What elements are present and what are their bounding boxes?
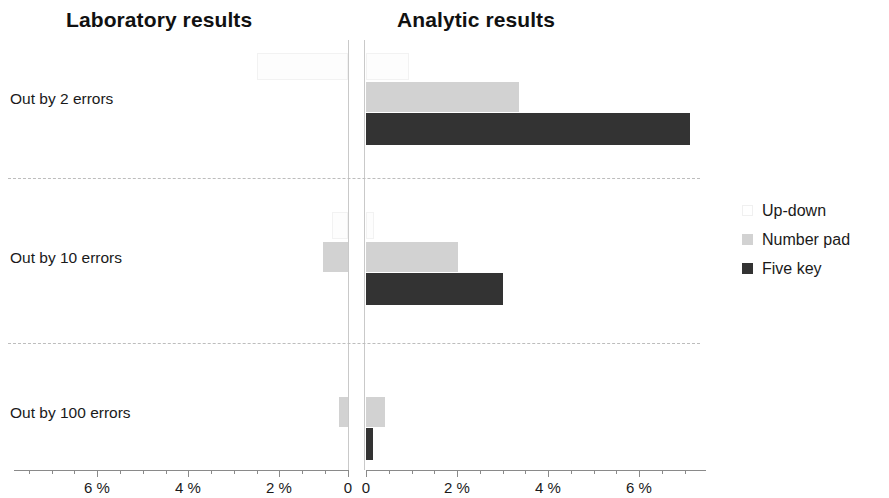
legend-label-five-key: Five key bbox=[762, 260, 822, 278]
bar-analytic-five-key-out-by-2-errors bbox=[366, 113, 690, 145]
plot-area: Out by 2 errors Out by 10 errors Out by … bbox=[0, 40, 720, 470]
x-axis-label-right-6pct: 6 % bbox=[626, 479, 652, 496]
x-axis-tick-minor bbox=[571, 470, 572, 474]
x-axis-tick-minor bbox=[74, 470, 75, 474]
x-axis-label-left-2pct: 2 % bbox=[266, 479, 292, 496]
x-axis-tick-minor bbox=[120, 470, 121, 474]
bar-laboratory-number-pad-out-by-10-errors bbox=[323, 242, 348, 272]
analytic-panel-title: Analytic results bbox=[397, 8, 555, 32]
x-axis-tick-major bbox=[348, 470, 349, 477]
x-axis-tick-minor bbox=[52, 470, 53, 474]
x-axis-tick-minor bbox=[525, 470, 526, 474]
legend-swatch-icon bbox=[742, 263, 753, 274]
x-axis-label-right-4pct: 4 % bbox=[535, 479, 561, 496]
laboratory-panel-title: Laboratory results bbox=[66, 8, 252, 32]
x-axis-tick-major bbox=[279, 470, 280, 477]
x-axis-line-analytic bbox=[366, 470, 706, 471]
x-axis-tick-minor bbox=[302, 470, 303, 474]
laboratory-zero-axis-line bbox=[348, 40, 349, 470]
legend-item-five-key: Five key bbox=[742, 254, 850, 283]
x-axis-label-left-4pct: 4 % bbox=[175, 479, 201, 496]
row-label-out-by-10-errors: Out by 10 errors bbox=[10, 249, 122, 267]
x-axis-tick-minor bbox=[257, 470, 258, 474]
butterfly-bar-chart: Laboratory results Analytic results Out … bbox=[0, 0, 889, 498]
bar-analytic-up-down-out-by-10-errors bbox=[366, 212, 374, 239]
x-axis-tick-major bbox=[457, 470, 458, 477]
x-axis-tick-minor bbox=[143, 470, 144, 474]
row-label-out-by-2-errors: Out by 2 errors bbox=[10, 90, 113, 108]
x-axis-tick-major bbox=[97, 470, 98, 477]
x-axis-tick-minor bbox=[29, 470, 30, 474]
x-axis-tick-minor bbox=[389, 470, 390, 474]
row-separator bbox=[8, 178, 700, 179]
x-axis-tick-minor bbox=[685, 470, 686, 474]
x-axis-tick-major bbox=[639, 470, 640, 477]
legend-swatch-icon bbox=[742, 234, 753, 245]
x-axis-tick-minor bbox=[503, 470, 504, 474]
bar-analytic-up-down-out-by-2-errors bbox=[366, 53, 409, 80]
legend: Up-down Number pad Five key bbox=[742, 196, 850, 283]
bar-laboratory-up-down-out-by-2-errors bbox=[257, 53, 348, 80]
legend-label-number-pad: Number pad bbox=[762, 231, 850, 249]
x-axis-label-right-2pct: 2 % bbox=[444, 479, 470, 496]
bar-analytic-number-pad-out-by-10-errors bbox=[366, 242, 458, 272]
x-axis-tick-major bbox=[366, 470, 367, 477]
x-axis-tick-minor bbox=[616, 470, 617, 474]
x-axis: 6 % 4 % 2 % 0 0 2 % 4 % 6 % bbox=[0, 470, 720, 498]
x-axis-tick-minor bbox=[412, 470, 413, 474]
analytic-zero-axis-line bbox=[364, 40, 365, 470]
x-axis-tick-minor bbox=[211, 470, 212, 474]
legend-item-number-pad: Number pad bbox=[742, 225, 850, 254]
legend-swatch-icon bbox=[742, 205, 753, 216]
x-axis-tick-minor bbox=[480, 470, 481, 474]
bar-analytic-five-key-out-by-100-errors bbox=[366, 428, 373, 460]
x-axis-tick-minor bbox=[166, 470, 167, 474]
x-axis-tick-major bbox=[188, 470, 189, 477]
bar-laboratory-up-down-out-by-10-errors bbox=[332, 212, 348, 239]
bar-analytic-number-pad-out-by-100-errors bbox=[366, 397, 385, 427]
bar-analytic-number-pad-out-by-2-errors bbox=[366, 82, 519, 112]
x-axis-label-left-0: 0 bbox=[344, 479, 352, 496]
x-axis-tick-minor bbox=[594, 470, 595, 474]
x-axis-label-left-6pct: 6 % bbox=[84, 479, 110, 496]
row-separator bbox=[8, 343, 700, 344]
legend-item-up-down: Up-down bbox=[742, 196, 850, 225]
bar-laboratory-number-pad-out-by-100-errors bbox=[339, 397, 348, 427]
x-axis-line-laboratory bbox=[14, 470, 348, 471]
x-axis-tick-minor bbox=[234, 470, 235, 474]
x-axis-label-right-0: 0 bbox=[362, 479, 370, 496]
row-label-out-by-100-errors: Out by 100 errors bbox=[10, 404, 131, 422]
x-axis-tick-minor bbox=[325, 470, 326, 474]
legend-label-up-down: Up-down bbox=[762, 202, 826, 220]
x-axis-tick-major bbox=[548, 470, 549, 477]
x-axis-tick-minor bbox=[662, 470, 663, 474]
bar-analytic-five-key-out-by-10-errors bbox=[366, 273, 503, 305]
x-axis-tick-minor bbox=[434, 470, 435, 474]
